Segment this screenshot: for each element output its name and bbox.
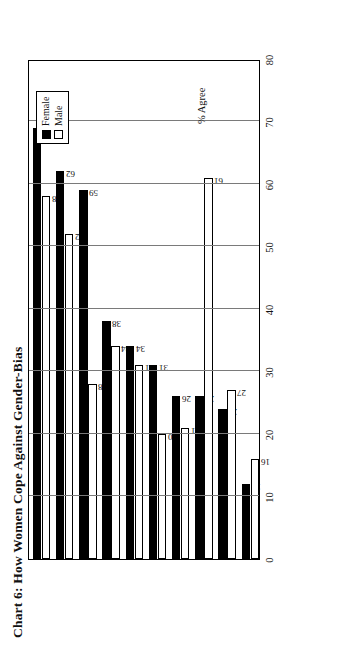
bar-male [181, 428, 190, 559]
bar-female [172, 397, 181, 560]
gridline [29, 246, 259, 247]
bar-group: 2427 [215, 61, 238, 559]
chart-legend: Female Male [36, 91, 69, 144]
bar-group: 2661 [191, 61, 214, 559]
value-axis: 01020304050607080 [264, 60, 284, 560]
bar-group: 3431 [122, 61, 145, 559]
bar-value-label: 62 [66, 170, 75, 180]
x-axis-tick-label: 30 [264, 367, 275, 378]
bar-value-label: 59 [89, 188, 98, 198]
legend-item-male: Male [53, 97, 66, 139]
bar-female [56, 172, 65, 560]
x-axis-tick-label: 20 [264, 430, 275, 441]
x-axis-title: % Agree [196, 88, 207, 124]
bar-group: 3834 [99, 61, 122, 559]
bar-male [88, 384, 97, 559]
bar-male [251, 459, 260, 559]
bar-female [218, 409, 227, 559]
bar-male [204, 178, 213, 559]
gridline [29, 308, 259, 309]
legend-label-male: Male [53, 105, 66, 126]
bar-value-label: 26 [182, 395, 191, 405]
bar-male [135, 365, 144, 559]
legend-swatch-female-icon [42, 130, 51, 139]
bar-value-label: 34 [136, 345, 145, 355]
gridline [29, 496, 259, 497]
legend-item-female: Female [40, 97, 53, 139]
gridline [29, 371, 259, 372]
bar-female [195, 397, 204, 560]
x-axis-tick-label: 50 [264, 242, 275, 253]
bar-male [65, 234, 74, 559]
bar-male [111, 347, 120, 560]
x-axis-tick-label: 70 [264, 117, 275, 128]
bar-group: 3120 [145, 61, 168, 559]
x-axis-tick-label: 80 [264, 55, 275, 66]
x-axis-tick-label: 10 [264, 492, 275, 503]
bar-value-label: 31 [159, 363, 168, 373]
bar-group: 1216 [238, 61, 261, 559]
x-axis-tick-label: 0 [264, 557, 275, 562]
gridline [29, 433, 259, 434]
bar-group: 2621 [168, 61, 191, 559]
bar-female [149, 365, 158, 559]
bar-female [33, 128, 42, 559]
legend-label-female: Female [40, 97, 53, 126]
bar-male [227, 390, 236, 559]
gridline [29, 183, 259, 184]
bar-male [42, 197, 51, 560]
page-rotation-wrapper: Chart 6: How Women Cope Against Gender-B… [0, 0, 344, 664]
chart-title: Chart 6: How Women Cope Against Gender-B… [10, 347, 26, 638]
bar-female [126, 347, 135, 560]
bar-female [102, 322, 111, 560]
chart-figure: Chart 6: How Women Cope Against Gender-B… [0, 0, 344, 664]
bar-group: 5928 [75, 61, 98, 559]
legend-swatch-male-icon [54, 130, 63, 139]
x-axis-tick-label: 60 [264, 180, 275, 191]
bar-male [158, 434, 167, 559]
bar-value-label: 38 [112, 320, 121, 330]
x-axis-tick-label: 40 [264, 305, 275, 316]
